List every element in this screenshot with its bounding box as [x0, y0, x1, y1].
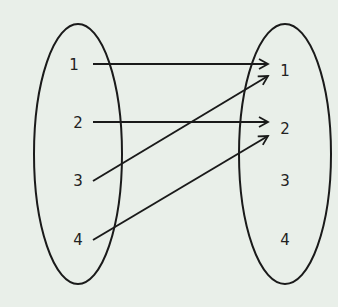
domain-item-1: 1 [69, 56, 79, 74]
arrow-3-to-1 [93, 76, 268, 181]
arrow-4-to-2 [93, 136, 268, 240]
mapping-diagram: 1 2 3 4 1 2 3 4 [0, 0, 338, 307]
domain-item-2: 2 [73, 114, 83, 132]
domain-item-3: 3 [73, 172, 83, 190]
codomain-item-4: 4 [280, 231, 290, 249]
domain-item-4: 4 [73, 231, 83, 249]
codomain-item-3: 3 [280, 172, 290, 190]
codomain-item-1: 1 [280, 62, 290, 80]
codomain-item-2: 2 [280, 120, 290, 138]
